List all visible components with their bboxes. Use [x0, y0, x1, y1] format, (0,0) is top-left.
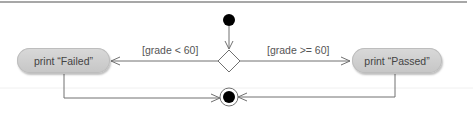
- edge-passed-to-final: [238, 74, 395, 97]
- final-node-inner-icon: [223, 91, 235, 103]
- initial-node-icon: [223, 14, 235, 26]
- edge-failed-to-final: [64, 74, 220, 98]
- guard-label-pass: [grade >= 60]: [267, 44, 329, 56]
- decision-node-icon: [218, 50, 240, 72]
- guard-label-fail: [grade < 60]: [142, 44, 198, 56]
- action-print-passed: print “Passed”: [352, 48, 442, 73]
- action-print-failed: print “Failed”: [17, 48, 110, 73]
- action-label: print “Failed”: [34, 55, 93, 67]
- action-label: print “Passed”: [364, 55, 429, 67]
